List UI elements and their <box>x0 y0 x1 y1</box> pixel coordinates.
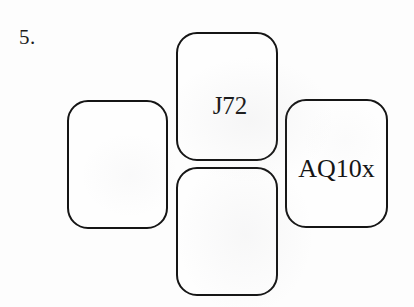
card-left[interactable] <box>67 100 168 229</box>
card-top-label: J72 <box>213 93 248 118</box>
card-bottom[interactable] <box>176 167 278 296</box>
worksheet-page: 5. J72 AQ10x <box>0 0 414 307</box>
card-right-label: AQ10x <box>298 156 375 182</box>
question-number: 5. <box>19 27 36 48</box>
card-right[interactable]: AQ10x <box>285 99 388 228</box>
card-top[interactable]: J72 <box>176 32 278 161</box>
